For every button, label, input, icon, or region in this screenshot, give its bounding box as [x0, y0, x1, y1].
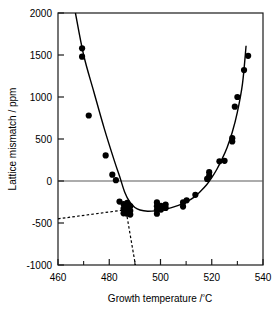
y-tick-label: 1000	[30, 92, 53, 103]
x-tick-label: 480	[101, 272, 118, 283]
data-point	[229, 135, 235, 141]
x-axis-title-main: Growth temperature /	[108, 293, 203, 304]
y-tick-label: -500	[32, 218, 52, 229]
data-point	[241, 67, 247, 73]
y-tick-label: -1000	[26, 260, 52, 271]
x-axis-title-unit: C	[205, 293, 212, 304]
data-point	[86, 112, 92, 118]
data-point	[103, 152, 109, 158]
y-tick-label: 1500	[30, 50, 53, 61]
x-axis-title: Growth temperature /ºC	[108, 293, 212, 304]
x-tick-label: 540	[255, 272, 272, 283]
data-point	[221, 158, 227, 164]
y-axis-tick-labels: -1000-5000500100015002000	[26, 8, 52, 271]
data-point	[184, 197, 190, 203]
y-axis-title: Lattice mismatch / ppm	[7, 88, 18, 191]
data-point	[232, 104, 238, 110]
y-tick-label: 0	[46, 176, 52, 187]
x-tick-label: 500	[152, 272, 169, 283]
lattice-mismatch-figure: -1000-5000500100015002000 46048050052054…	[0, 0, 279, 312]
y-tick-label: 500	[35, 134, 52, 145]
data-point	[163, 205, 169, 211]
x-tick-label: 460	[50, 272, 67, 283]
data-point	[109, 172, 115, 178]
data-point	[127, 212, 133, 218]
data-point	[113, 177, 119, 183]
data-point	[192, 192, 198, 198]
scatter-plot-svg: -1000-5000500100015002000 46048050052054…	[0, 0, 279, 312]
data-point	[206, 169, 212, 175]
x-axis-tick-labels: 460480500520540	[50, 272, 272, 283]
data-point	[79, 54, 85, 60]
data-point	[234, 94, 240, 100]
data-point	[245, 53, 251, 59]
x-tick-label: 520	[203, 272, 220, 283]
y-tick-label: 2000	[30, 8, 53, 19]
data-point	[79, 45, 85, 51]
data-point	[180, 204, 186, 210]
